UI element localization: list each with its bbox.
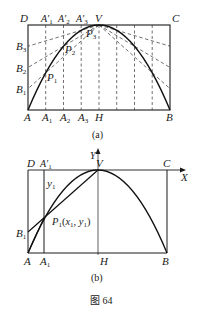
- panel-a: D C V A′1 A′2 A′3 B3 B2 B1 P1 P2 P3 A A1…: [16, 12, 180, 141]
- dashed-verticals: [46, 25, 153, 110]
- line-a-p1: [28, 218, 44, 253]
- panel-b-label: (b): [91, 272, 103, 284]
- label-p3: P3: [85, 27, 97, 41]
- label-a: A: [23, 111, 31, 123]
- label-a1-prime: A′1: [39, 158, 52, 171]
- label-a2-prime: A′2: [57, 13, 70, 26]
- panel-a-label: (a): [92, 129, 103, 141]
- label-d: D: [19, 12, 28, 24]
- label-b: B: [166, 111, 173, 123]
- label-p2: P2: [64, 43, 76, 57]
- figure-64: D C V A′1 A′2 A′3 B3 B2 B1 P1 P2 P3 A A1…: [0, 0, 203, 318]
- label-v: V: [95, 12, 103, 24]
- label-a: A: [23, 255, 31, 267]
- label-a3: A3: [77, 111, 89, 125]
- label-h: H: [94, 111, 104, 123]
- label-a1-prime: A′1: [40, 13, 53, 26]
- label-a1: A1: [39, 255, 51, 269]
- label-v: V: [96, 157, 104, 169]
- label-b1: B1: [16, 83, 27, 97]
- label-y1: y1: [46, 177, 56, 191]
- label-a2: A2: [59, 111, 71, 125]
- label-b3: B3: [16, 40, 27, 54]
- label-b1: B1: [16, 227, 27, 241]
- label-b2: B2: [16, 62, 27, 76]
- y-axis-arrow-icon: [96, 148, 101, 154]
- label-p1-coords: P1(x1, y1): [51, 216, 91, 229]
- label-c: C: [172, 12, 180, 24]
- label-b: B: [162, 255, 169, 267]
- label-a3-prime: A′3: [75, 13, 88, 26]
- label-c: C: [163, 157, 171, 169]
- label-x-axis: X: [180, 171, 189, 183]
- label-p1: P1: [46, 71, 58, 85]
- label-d: D: [26, 157, 35, 169]
- panel-b: Y D A′1 V C X y1 P1(x1, y1) B1 A A1 H B …: [16, 148, 189, 284]
- figure-caption: 图 64: [90, 295, 113, 306]
- label-h: H: [99, 255, 109, 267]
- label-a1: A1: [41, 111, 53, 125]
